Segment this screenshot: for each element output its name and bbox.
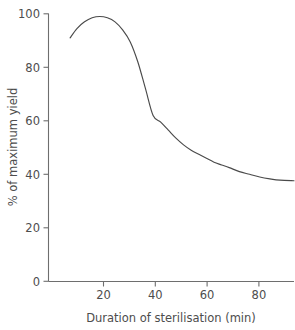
y-tick-label-20: 20 (25, 221, 40, 235)
y-tick-label-100: 100 (18, 7, 40, 21)
y-tick-label-0: 0 (33, 275, 40, 289)
x-axis-title: Duration of sterilisation (min) (86, 311, 256, 325)
x-tick-label-20: 20 (96, 288, 111, 302)
y-axis-tick-labels: 100 80 60 40 20 0 (18, 7, 40, 289)
x-axis-ticks (104, 282, 259, 287)
x-axis-tick-labels: 20 40 60 80 (96, 288, 266, 302)
yield-curve (70, 16, 294, 180)
y-axis-ticks (44, 14, 49, 282)
x-tick-label-60: 60 (200, 288, 215, 302)
yield-vs-sterilisation-line-chart: 100 80 60 40 20 0 20 40 60 80 Duration o… (0, 0, 295, 330)
x-tick-label-40: 40 (148, 288, 163, 302)
y-tick-label-60: 60 (25, 114, 40, 128)
y-axis-title: % of maximum yield (6, 88, 20, 207)
x-tick-label-80: 80 (252, 288, 267, 302)
y-tick-label-40: 40 (25, 168, 40, 182)
chart-container: 100 80 60 40 20 0 20 40 60 80 Duration o… (0, 0, 295, 330)
y-tick-label-80: 80 (25, 61, 40, 75)
